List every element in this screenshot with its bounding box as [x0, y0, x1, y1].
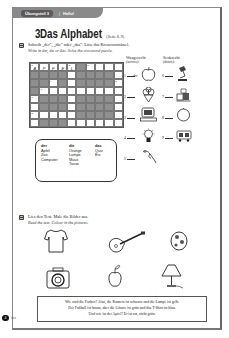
- crossword-cell[interactable]: [49, 111, 58, 119]
- crossword-cell[interactable]: [95, 119, 104, 127]
- answer-blank[interactable]: [127, 138, 135, 139]
- crossword-cell[interactable]: [76, 87, 85, 95]
- crossword-cell[interactable]: [114, 111, 123, 119]
- crossword-block: [39, 119, 48, 127]
- crossword-cell[interactable]: 2L: [67, 63, 76, 71]
- crossword-cell[interactable]: F: [49, 63, 58, 71]
- header-separator: |: [59, 11, 60, 16]
- word-box: der Apfel Zoo Computer die Orange Lampe …: [35, 139, 117, 182]
- crossword-cell[interactable]: [67, 95, 76, 103]
- crossword-cell[interactable]: [30, 103, 39, 111]
- crossword-cell[interactable]: [67, 71, 76, 79]
- crossword-block: [95, 71, 104, 79]
- crossword-cell[interactable]: [67, 119, 76, 127]
- page-title: 3 Das Alphabet (Seite 8–9): [35, 26, 124, 41]
- crossword-block: [95, 111, 104, 119]
- crossword-cell[interactable]: [67, 103, 76, 111]
- answer-blank[interactable]: [127, 159, 135, 160]
- crossword-block: [76, 79, 85, 87]
- crossword-cell[interactable]: 3: [86, 63, 95, 71]
- crossword-cell[interactable]: 5: [114, 79, 123, 87]
- crossword-block: [58, 71, 67, 79]
- crossword-cell[interactable]: [114, 87, 123, 95]
- crossword-cell[interactable]: [114, 95, 123, 103]
- computer-icon: [140, 107, 157, 122]
- lamp-picture-icon[interactable]: [158, 264, 184, 290]
- crossword-cell[interactable]: 1A: [30, 63, 39, 71]
- crossword-cell[interactable]: [114, 103, 123, 111]
- crossword-cell[interactable]: [58, 87, 67, 95]
- crossword-block: [39, 71, 48, 79]
- crossword-cell[interactable]: 7: [30, 95, 39, 103]
- crossword-block: [30, 79, 39, 87]
- answer-blank[interactable]: [127, 97, 135, 98]
- crossword-cell[interactable]: [114, 71, 123, 79]
- crossword-block: [86, 103, 95, 111]
- ice-cream-icon: [142, 87, 155, 103]
- crossword-block: [49, 119, 58, 127]
- exercise2-instruction-de: Lies den Text. Male die Bilder aus.: [28, 214, 88, 219]
- text-line: Und wie ist der Apfel? Er ist rot, nicht…: [38, 311, 206, 317]
- crossword-block: [58, 103, 67, 111]
- answer-blank[interactable]: der: [127, 76, 135, 77]
- crossword-cell[interactable]: E: [58, 63, 67, 71]
- crossword-block: [58, 79, 67, 87]
- t-shirt-icon[interactable]: [44, 228, 68, 254]
- crossword-block: [95, 79, 104, 87]
- worksheet-page: Übungsteil 3 | Hallo! 3 Das Alphabet (Se…: [12, 7, 222, 330]
- light-bulb-icon: [142, 128, 155, 144]
- answer-blank[interactable]: [127, 118, 135, 119]
- crossword-block: [86, 95, 95, 103]
- crossword-cell[interactable]: [114, 119, 123, 127]
- word: Eis: [95, 153, 115, 158]
- crossword-cell[interactable]: [114, 63, 123, 71]
- crossword-block: [49, 103, 58, 111]
- crossword-block: [39, 103, 48, 111]
- crossword-cell[interactable]: [95, 63, 104, 71]
- football-icon[interactable]: [170, 231, 188, 251]
- answer-blank[interactable]: [165, 97, 173, 98]
- crossword-cell[interactable]: [67, 111, 76, 119]
- crossword-cell[interactable]: [67, 79, 76, 87]
- crossword-block: [76, 71, 85, 79]
- page-number-word: vier: [11, 316, 16, 320]
- across-heading: Waagerecht (across):: [126, 55, 146, 64]
- exercise2-instruction-en: Read the text. Colour in the pictures.: [28, 220, 88, 225]
- crossword-block: [104, 71, 113, 79]
- answer-blank[interactable]: [165, 76, 173, 77]
- crossword-cell[interactable]: [86, 87, 95, 95]
- crossword-cell[interactable]: [49, 87, 58, 95]
- crossword-grid: 1APFE2L345678: [29, 62, 124, 128]
- crossword-cell[interactable]: 8: [30, 111, 39, 119]
- exercise1-instruction-de: Schreib „der“, „die“ oder „das“. Löse da…: [28, 42, 129, 47]
- crossword-cell[interactable]: [104, 119, 113, 127]
- crossword-block: [30, 71, 39, 79]
- crossword-cell[interactable]: [95, 87, 104, 95]
- camera-icon[interactable]: [46, 266, 70, 290]
- answer-blank[interactable]: [165, 118, 173, 119]
- crossword-cell[interactable]: [67, 87, 76, 95]
- crossword-cell[interactable]: [39, 111, 48, 119]
- page-number-badge: 4: [2, 315, 9, 321]
- crossword-cell[interactable]: [104, 63, 113, 71]
- word: Computer: [41, 158, 69, 163]
- crossword-item-2: 2: [124, 94, 136, 99]
- answer-blank[interactable]: [165, 138, 173, 139]
- crossword-block: [49, 95, 58, 103]
- crossword-cell[interactable]: 4: [49, 79, 58, 87]
- crossword-cell[interactable]: [58, 111, 67, 119]
- crossword-cell[interactable]: [104, 87, 113, 95]
- crossword-cell[interactable]: [30, 119, 39, 127]
- crossword-block: [104, 95, 113, 103]
- crossword-cell[interactable]: [86, 119, 95, 127]
- crossword-cell[interactable]: 6: [39, 87, 48, 95]
- guitar-icon[interactable]: [108, 231, 146, 254]
- crossword-block: [49, 71, 58, 79]
- crossword-block: [86, 111, 95, 119]
- crossword-cell[interactable]: [76, 119, 85, 127]
- crossword-block: [104, 79, 113, 87]
- apple-picture-icon[interactable]: [108, 264, 122, 288]
- word-column-das: das Quiz Eis: [95, 144, 115, 177]
- desk-lamp-icon: [176, 65, 189, 82]
- crossword-cell[interactable]: P: [39, 63, 48, 71]
